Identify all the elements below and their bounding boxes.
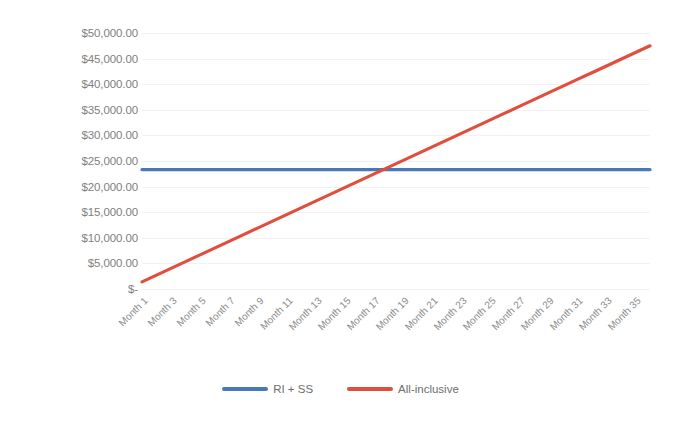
- y-tick-label: $35,000.00: [8, 104, 138, 116]
- y-tick-label: $50,000.00: [8, 27, 138, 39]
- legend-swatch-icon: [347, 387, 393, 391]
- y-tick-label: $10,000.00: [8, 232, 138, 244]
- y-tick-label: $30,000.00: [8, 129, 138, 141]
- y-tick-label: $5,000.00: [8, 257, 138, 269]
- chart-legend: RI + SSAll-inclusive: [0, 383, 681, 395]
- legend-item[interactable]: RI + SS: [222, 383, 313, 395]
- series-layer: [142, 33, 650, 289]
- legend-swatch-icon: [222, 387, 268, 391]
- y-tick-label: $45,000.00: [8, 53, 138, 65]
- legend-label: All-inclusive: [398, 383, 459, 395]
- plot-area: [142, 33, 650, 289]
- y-tick-label: $15,000.00: [8, 206, 138, 218]
- legend-label: RI + SS: [273, 383, 313, 395]
- x-axis: Month 1Month 3Month 5Month 7Month 9Month…: [142, 289, 650, 379]
- y-tick-label: $-: [8, 283, 138, 295]
- y-tick-label: $40,000.00: [8, 78, 138, 90]
- legend-item[interactable]: All-inclusive: [347, 383, 459, 395]
- series-line-all-inclusive: [142, 46, 650, 282]
- y-tick-label: $25,000.00: [8, 155, 138, 167]
- line-chart: $-$5,000.00$10,000.00$15,000.00$20,000.0…: [0, 0, 681, 423]
- y-tick-label: $20,000.00: [8, 181, 138, 193]
